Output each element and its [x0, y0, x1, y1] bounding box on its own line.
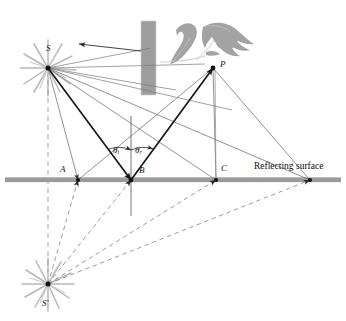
virtual-rays-dashed	[48, 180, 310, 284]
theta-r-subscript: r	[139, 149, 141, 155]
label-point-a: A	[60, 165, 66, 174]
label-point-b: B	[139, 166, 145, 175]
label-theta-reflection: θr	[135, 146, 142, 155]
label-theta-incidence: θi	[113, 146, 119, 155]
label-source-s: S	[46, 44, 51, 53]
theta-i-subscript: i	[117, 149, 119, 155]
label-point-p: P	[220, 60, 226, 69]
node-dots	[46, 66, 313, 287]
reflecting-surface-line	[5, 177, 341, 182]
label-reflecting-surface: Reflecting surface	[254, 162, 323, 172]
label-image-source-sprime: S'	[42, 299, 48, 308]
blocked-ray-arrow	[79, 44, 141, 51]
corner-artifact	[3, 307, 5, 315]
opaque-barrier	[141, 21, 156, 95]
label-point-c: C	[221, 164, 227, 173]
reflection-diagram-figure: S S' P A B C θi θr Reflecting surface	[0, 0, 346, 321]
vertical-guide-lines	[215, 70, 216, 180]
